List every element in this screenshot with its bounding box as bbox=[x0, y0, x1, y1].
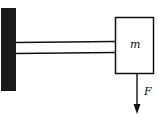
mass-label: m bbox=[130, 38, 140, 51]
fixed-wall bbox=[1, 8, 16, 91]
cantilever-diagram: m F bbox=[0, 0, 158, 130]
rod bbox=[16, 42, 115, 54]
rod-top-edge bbox=[16, 42, 115, 43]
force-arrow bbox=[134, 74, 141, 114]
arrowhead-down-icon bbox=[134, 104, 141, 114]
force-label: F bbox=[143, 85, 152, 98]
rod-bottom-edge bbox=[16, 53, 115, 54]
